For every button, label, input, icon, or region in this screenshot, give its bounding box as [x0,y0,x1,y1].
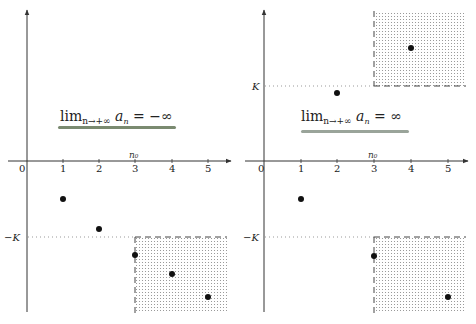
neg-k-label: −K [243,232,259,243]
limit-value: = ∞ [374,108,402,124]
n0-label: n₀ [129,150,139,160]
left-panel: 0 1 2 3 4 5 n₀ −K [4,10,231,314]
sequence-var-subscript: n [364,117,369,126]
tick-label-1: 1 [60,163,66,174]
tick-label-2: 2 [334,163,340,174]
n0-label: n₀ [368,150,378,160]
tick-label-4: 4 [169,163,175,174]
limit-value: = −∞ [133,108,173,124]
tick-label-5: 5 [445,163,451,174]
formula-underline-left [58,126,176,129]
shaded-region-below-neg-k [135,237,227,312]
lim-text: lim [301,108,323,124]
tick-label-3: 3 [132,163,138,174]
tick-label-4: 4 [408,163,414,174]
k-label: K [251,81,260,92]
tick-label-3: 3 [371,163,377,174]
neg-k-label: −K [4,232,20,243]
tick-label-0: 0 [19,163,25,174]
shaded-region-above-k [374,11,466,86]
lim-subscript: n→+∞ [82,116,110,126]
limits-diagram: 0 1 2 3 4 5 n₀ −K [0,0,476,324]
tick-label-0: 0 [258,163,264,174]
limit-formula-left: limn→+∞ an = −∞ [60,108,173,124]
limit-formula-right: limn→+∞ an = ∞ [301,108,402,124]
right-panel: 0 1 2 3 4 5 n₀ K −K [243,10,468,314]
formula-underline-right [301,130,409,133]
sequence-var-subscript: n [123,117,128,126]
tick-label-5: 5 [205,163,211,174]
tick-label-1: 1 [298,163,304,174]
shaded-region-below-neg-k [374,237,466,312]
lim-subscript: n→+∞ [323,116,351,126]
lim-text: lim [60,108,82,124]
tick-label-2: 2 [96,163,102,174]
